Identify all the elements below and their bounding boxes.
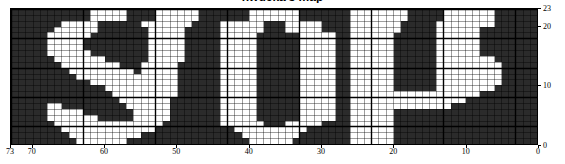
x-axis-tick-label: 40 — [234, 147, 264, 156]
y-axis-tick-label: 10 — [543, 81, 551, 90]
x-axis-tick-label: 60 — [89, 147, 119, 156]
y-axis-tick — [538, 145, 541, 146]
x-axis-tick-label: 10 — [451, 147, 481, 156]
y-axis-tick-label: 0 — [543, 141, 547, 150]
x-axis-tick-label: 50 — [161, 147, 191, 156]
heatmap-plot-area — [10, 8, 538, 145]
y-axis-tick-label: 23 — [543, 4, 551, 13]
x-axis-tick-label: 70 — [17, 147, 47, 156]
x-axis-tick-label: 0 — [523, 147, 553, 156]
x-axis-tick-label: 30 — [306, 147, 336, 156]
y-axis-tick-label: 20 — [543, 22, 551, 31]
y-axis-tick — [538, 8, 541, 9]
stop-pixel-grid — [11, 9, 537, 144]
figure-container: nwucka's map 737060504030201002320100 — [0, 0, 565, 164]
y-axis-tick — [538, 26, 541, 27]
y-axis-tick — [538, 85, 541, 86]
figure-title-fragment: nwucka's map — [0, 0, 565, 3]
x-axis-tick-label: 20 — [378, 147, 408, 156]
